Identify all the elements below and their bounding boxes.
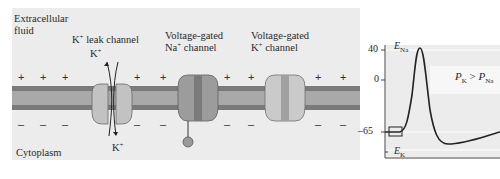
svg-text:+: + xyxy=(62,71,68,83)
svg-text:+: + xyxy=(40,71,46,83)
svg-text:+: + xyxy=(340,71,346,83)
svg-text:+: + xyxy=(248,71,254,83)
svg-text:–: – xyxy=(248,118,255,130)
y-tick-minus65: –65 xyxy=(358,125,373,136)
svg-text:+: + xyxy=(315,71,321,83)
svg-text:–: – xyxy=(40,118,47,130)
svg-text:+: + xyxy=(224,71,230,83)
k-ion-in-label: K+ xyxy=(112,142,124,154)
svg-text:–: – xyxy=(224,118,231,130)
svg-text:–: – xyxy=(315,118,322,130)
y-tick-40: 40 xyxy=(368,43,378,54)
svg-text:–: – xyxy=(62,118,69,130)
e-na-label: ENa xyxy=(394,40,408,54)
k-ion-out-label: K+ xyxy=(90,48,102,60)
permeability-annotation: PK > PNa xyxy=(455,70,493,85)
vg-k-channel-label: Voltage-gated K+ channel xyxy=(251,30,309,54)
svg-text:–: – xyxy=(18,118,25,130)
k-leak-channel-label: K+ leak channel xyxy=(72,34,139,46)
svg-text:+: + xyxy=(160,71,166,83)
vg-na-channel-shape xyxy=(178,75,218,147)
cytoplasm-label: Cytoplasm xyxy=(16,147,62,159)
svg-text:+: + xyxy=(18,71,24,83)
k-leak-channel-shape xyxy=(92,62,132,136)
y-tick-0: 0 xyxy=(374,73,379,84)
svg-text:–: – xyxy=(160,118,167,130)
vg-na-channel-label: Voltage-gated Na+ channel xyxy=(165,30,223,54)
e-k-label: EK xyxy=(394,145,405,159)
vg-k-channel-shape xyxy=(265,75,305,121)
svg-text:+: + xyxy=(134,71,140,83)
extracellular-label: Extracellular fluid xyxy=(14,13,68,37)
svg-text:–: – xyxy=(340,118,347,130)
svg-text:–: – xyxy=(134,118,141,130)
